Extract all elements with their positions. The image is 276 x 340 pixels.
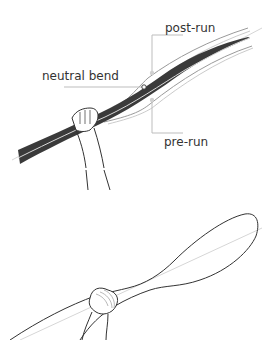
diagram-canvas: post-run neutral bend pre-run [0,0,276,340]
forearm-bottom [82,312,108,340]
neutral-bend-label: neutral bend [42,70,119,82]
top-figure [12,28,262,190]
pre-run-leader [152,100,183,133]
bottom-figure [10,214,262,340]
pre-run-label: pre-run [164,136,208,148]
pre-run-marker [150,98,154,102]
pre-run-outline [104,46,252,122]
hand-fist-bottom [89,288,117,314]
shaft-dark [18,37,250,164]
post-run-label: post-run [165,22,215,34]
forearm-right-edge [94,128,104,168]
neutral-bend-marker [142,85,146,89]
post-run-marker [150,71,154,75]
paddle-outline [10,214,258,340]
illustration [0,0,276,340]
forearm-left-edge [76,130,86,168]
